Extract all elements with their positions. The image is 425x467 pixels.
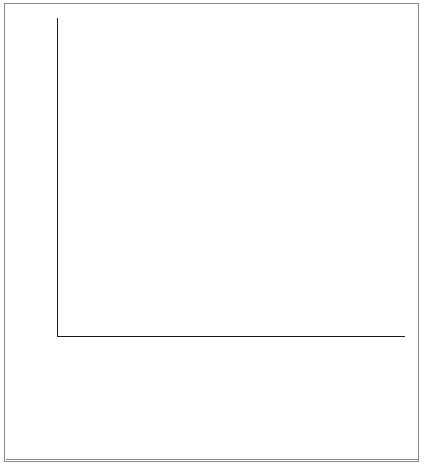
sub-label-row [57, 372, 405, 462]
y-axis-labels [5, 4, 49, 461]
x-axis-line [57, 336, 405, 337]
category-label-row [57, 341, 405, 369]
bottom-divider [6, 459, 419, 460]
bar-chart-plot-area [5, 4, 418, 461]
bar-series [57, 18, 405, 336]
chart-figure [4, 3, 419, 462]
